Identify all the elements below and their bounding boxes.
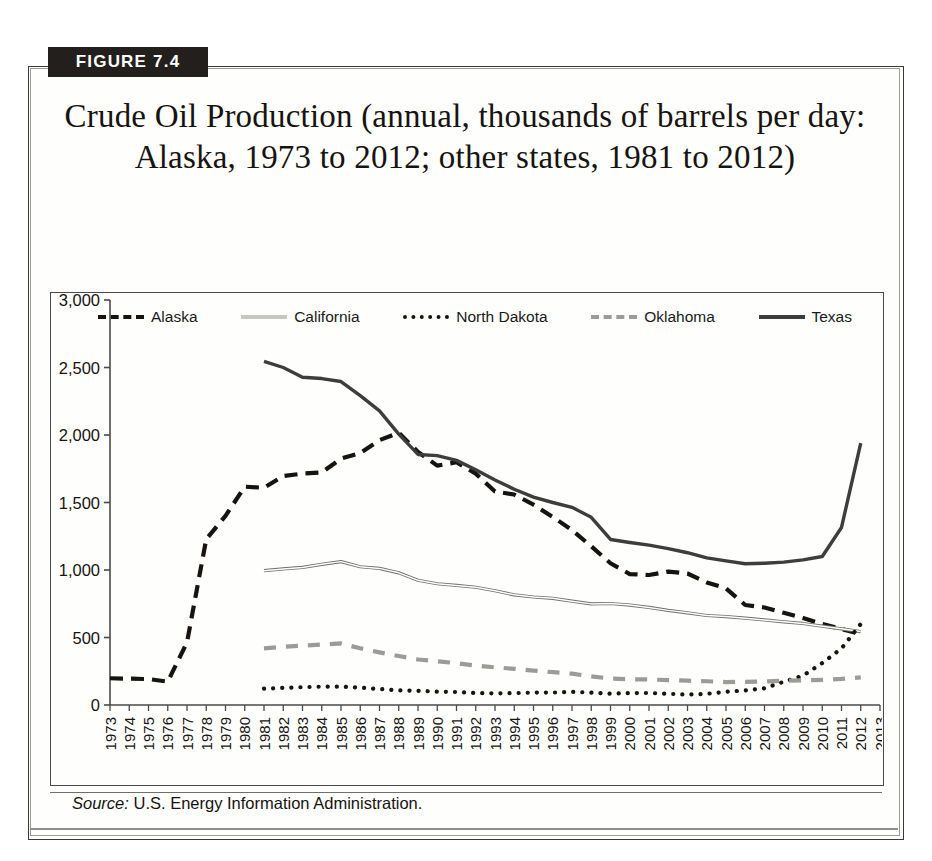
y-tick-label: 500 [72, 629, 100, 647]
series-line-north-dakota [264, 624, 861, 695]
y-tick-label: 1,000 [59, 561, 100, 579]
x-tick-label: 2007 [756, 717, 773, 750]
x-tick-label: 2000 [621, 717, 638, 750]
x-tick-label: 2008 [775, 717, 792, 750]
x-tick-label: 1999 [602, 717, 619, 750]
x-tick-label: 2003 [679, 717, 696, 750]
x-tick-label: 1997 [564, 717, 581, 750]
y-tick-label: 0 [91, 696, 100, 714]
source-text: U.S. Energy Information Administration. [133, 794, 422, 812]
x-tick-label: 1976 [159, 717, 176, 750]
x-tick-label: 2011 [833, 717, 850, 749]
series-line-california-inner [264, 562, 861, 632]
x-tick-label: 1984 [313, 717, 330, 750]
source-keyword: Source: [72, 794, 129, 812]
figure-container: FIGURE 7.4 Crude Oil Production (annual,… [0, 0, 932, 861]
x-tick-label: 1987 [371, 717, 388, 750]
x-tick-label: 1978 [198, 717, 215, 750]
x-tick-label: 2001 [641, 717, 658, 750]
x-tick-label: 2002 [660, 717, 677, 750]
series-line-texas [264, 361, 861, 564]
x-tick-label: 1998 [583, 717, 600, 750]
x-tick-label: 1990 [429, 717, 446, 750]
series-line-alaska [110, 433, 861, 682]
x-tick-label: 2012 [852, 717, 869, 750]
x-tick-label: 1988 [390, 717, 407, 750]
x-tick-label: 2006 [737, 717, 754, 750]
source-divider [50, 792, 882, 793]
x-tick-label: 1973 [102, 717, 119, 750]
x-tick-label: 2004 [698, 717, 715, 750]
x-tick-label: 1975 [140, 717, 157, 750]
x-tick-label: 1996 [544, 717, 561, 750]
x-tick-label: 1985 [333, 717, 350, 750]
series-line-oklahoma [264, 643, 861, 682]
x-tick-label: 2010 [814, 717, 831, 750]
y-tick-label: 3,000 [59, 292, 100, 309]
x-tick-label: 1979 [217, 717, 234, 750]
x-tick-label: 2005 [718, 717, 735, 750]
x-tick-label: 1986 [352, 717, 369, 750]
bottom-divider [30, 828, 898, 830]
x-tick-label: 1993 [487, 717, 504, 750]
x-tick-label: 1983 [294, 717, 311, 750]
x-tick-label: 2009 [795, 717, 812, 750]
x-tick-label: 1994 [506, 717, 523, 750]
x-tick-label: 2013 [872, 717, 883, 750]
line-chart-plot: 05001,0001,5002,0002,5003,00019731974197… [50, 292, 882, 784]
figure-number-banner: FIGURE 7.4 [48, 47, 208, 77]
x-tick-label: 1995 [525, 717, 542, 750]
x-tick-label: 1992 [467, 717, 484, 750]
x-tick-label: 1980 [236, 717, 253, 750]
x-tick-label: 1989 [410, 717, 427, 750]
x-tick-label: 1974 [121, 717, 138, 750]
x-tick-label: 1981 [256, 717, 273, 750]
y-tick-label: 2,500 [59, 359, 100, 377]
chart-title: Crude Oil Production (annual, thousands … [50, 96, 880, 178]
x-tick-label: 1991 [448, 717, 465, 750]
source-note: Source: U.S. Energy Information Administ… [72, 794, 422, 813]
y-tick-label: 1,500 [59, 494, 100, 512]
x-tick-label: 1977 [179, 717, 196, 750]
x-tick-label: 1982 [275, 717, 292, 750]
y-tick-label: 2,000 [59, 426, 100, 444]
